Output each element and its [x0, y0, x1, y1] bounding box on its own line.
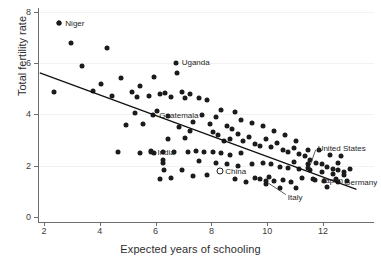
- data-point: [180, 89, 185, 94]
- x-axis-title: Expected years of schooling: [0, 243, 381, 255]
- data-point: [213, 160, 218, 165]
- data-point: [99, 82, 104, 87]
- data-point: [249, 120, 254, 125]
- data-point: [241, 139, 246, 144]
- data-point: [199, 112, 204, 117]
- data-point: [252, 176, 257, 181]
- data-point: [277, 186, 282, 191]
- data-point: [224, 123, 229, 128]
- data-point-germany: [336, 180, 341, 185]
- data-point: [202, 149, 207, 154]
- data-point: [269, 145, 274, 150]
- data-point: [188, 129, 193, 134]
- annotation-niger: Niger: [65, 19, 84, 28]
- data-point: [191, 119, 196, 124]
- data-point-united-states: [305, 165, 310, 170]
- data-point: [280, 177, 285, 182]
- data-point: [227, 136, 232, 141]
- data-point: [124, 123, 129, 128]
- data-point: [152, 74, 157, 79]
- data-point: [90, 88, 95, 93]
- data-point: [280, 147, 285, 152]
- data-point: [258, 177, 263, 182]
- data-point: [138, 83, 143, 88]
- data-point: [141, 122, 146, 127]
- data-point: [339, 153, 344, 158]
- data-point: [196, 159, 201, 164]
- data-point: [230, 127, 235, 132]
- data-point: [129, 90, 134, 95]
- data-point: [327, 152, 332, 157]
- annotation-india: India: [157, 147, 174, 156]
- data-point: [174, 70, 179, 75]
- data-point: [319, 161, 324, 166]
- data-point: [233, 110, 238, 115]
- data-point: [188, 91, 193, 96]
- data-point: [302, 153, 307, 158]
- data-point: [132, 111, 137, 116]
- data-point-guatemala: [151, 112, 156, 117]
- data-point: [261, 123, 266, 128]
- data-point: [115, 150, 120, 155]
- data-point: [288, 179, 293, 184]
- data-point: [233, 177, 238, 182]
- data-point: [161, 158, 166, 163]
- data-point: [305, 147, 310, 152]
- data-point: [297, 152, 302, 157]
- data-point: [157, 92, 162, 97]
- data-point-italy: [263, 178, 268, 183]
- data-point: [325, 184, 330, 189]
- data-point: [168, 95, 173, 100]
- data-point: [314, 160, 319, 165]
- data-point: [191, 174, 196, 179]
- annotation-uganda: Uganda: [182, 57, 210, 66]
- data-point: [79, 64, 84, 69]
- data-point: [247, 134, 252, 139]
- data-point: [325, 164, 330, 169]
- data-point: [157, 177, 162, 182]
- data-point: [138, 151, 143, 156]
- y-axis-title: Total fertility rate: [16, 0, 28, 116]
- plot-area: NigerUgandaGuatemalaIndiaChinaItalyUnite…: [0, 0, 381, 268]
- data-point: [216, 133, 221, 138]
- data-point-japan: [313, 177, 318, 182]
- data-point: [210, 129, 215, 134]
- data-point: [208, 122, 213, 127]
- annotation-guatemala: Guatemala: [159, 110, 198, 119]
- annotation-italy: Italy: [288, 192, 303, 201]
- data-point: [110, 93, 115, 98]
- data-point: [68, 41, 73, 46]
- data-point: [238, 118, 243, 123]
- data-point: [168, 176, 173, 181]
- data-point: [258, 143, 263, 148]
- data-point: [294, 185, 299, 190]
- annotation-united-states: United States: [318, 143, 366, 152]
- data-point: [261, 160, 266, 165]
- data-point: [249, 162, 254, 167]
- data-point: [286, 165, 291, 170]
- data-point: [336, 160, 341, 165]
- annotation-china: China: [225, 167, 246, 176]
- data-point: [294, 138, 299, 143]
- data-point: [272, 129, 277, 134]
- data-point: [274, 141, 279, 146]
- data-point: [182, 96, 187, 101]
- data-point: [135, 94, 140, 99]
- data-point: [221, 138, 226, 143]
- annotation-germany: Germany: [344, 178, 377, 187]
- data-point: [269, 162, 274, 167]
- data-point: [196, 96, 201, 101]
- data-point-china: [217, 168, 224, 175]
- data-point: [263, 136, 268, 141]
- data-point: [244, 179, 249, 184]
- data-point: [182, 135, 187, 140]
- data-point: [118, 75, 123, 80]
- data-point: [104, 46, 109, 51]
- data-point: [205, 98, 210, 103]
- data-point: [219, 151, 224, 156]
- data-point: [219, 107, 224, 112]
- data-point: [238, 151, 243, 156]
- data-point-uganda: [173, 60, 178, 65]
- data-point: [291, 159, 296, 164]
- data-point-india: [149, 149, 154, 154]
